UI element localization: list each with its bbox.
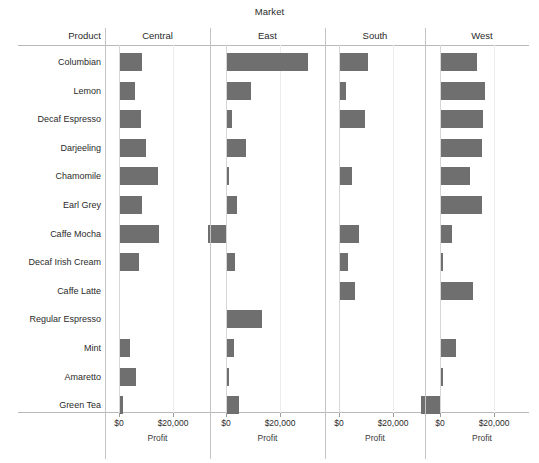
bar[interactable] [120, 110, 141, 128]
tick-label: $20,000 [158, 418, 189, 428]
bar[interactable] [120, 53, 142, 71]
row-label-columbian: Columbian [1, 57, 101, 68]
tick-label: $20,000 [479, 418, 510, 428]
tick-mark [339, 413, 340, 417]
bar[interactable] [227, 196, 237, 214]
bar[interactable] [120, 196, 142, 214]
bar[interactable] [441, 53, 477, 71]
row-label-amaretto: Amaretto [1, 372, 101, 383]
x-axis-title-central: Profit [105, 433, 210, 443]
row-label-mint: Mint [1, 343, 101, 354]
plot-area-east [210, 45, 325, 413]
row-label-chamomile: Chamomile [1, 171, 101, 182]
x-axis-title-east: Profit [210, 433, 325, 443]
bar[interactable] [441, 339, 456, 357]
row-label-caffe-mocha: Caffe Mocha [1, 229, 101, 240]
bar[interactable] [441, 196, 482, 214]
trellis-bar-chart: Market ProductCentralEastSouthWest Colum… [0, 0, 539, 463]
panel-separator-1 [210, 28, 211, 459]
bar[interactable] [227, 253, 235, 271]
x-axis-south: $0$20,000Profit [325, 413, 425, 459]
tick-mark [226, 413, 227, 417]
tick-mark [280, 413, 281, 417]
bar[interactable] [441, 282, 473, 300]
bar[interactable] [227, 396, 239, 414]
column-header-east: East [210, 28, 325, 45]
plot-area-south [325, 45, 425, 413]
bar[interactable] [120, 225, 159, 243]
plot-area-central [105, 45, 210, 413]
bar[interactable] [120, 368, 136, 386]
bar[interactable] [441, 82, 485, 100]
row-label-decaf-irish-cream: Decaf Irish Cream [1, 257, 101, 268]
bar[interactable] [120, 167, 158, 185]
x-axis-central: $0$20,000Profit [105, 413, 210, 459]
x-axis-east: $0$20,000Profit [210, 413, 325, 459]
bar[interactable] [340, 82, 346, 100]
bar[interactable] [120, 339, 130, 357]
zero-line-east [226, 45, 227, 413]
gridline-20000-central [173, 45, 174, 413]
tick-mark [393, 413, 394, 417]
bar[interactable] [340, 282, 355, 300]
column-header-south: South [325, 28, 425, 45]
row-label-caffe-latte: Caffe Latte [1, 286, 101, 297]
bar[interactable] [441, 253, 443, 271]
bar[interactable] [340, 53, 368, 71]
x-axis-title-west: Profit [425, 433, 539, 443]
product-label-column: ColumbianLemonDecaf EspressoDarjeelingCh… [0, 0, 101, 463]
row-label-darjeeling: Darjeeling [1, 143, 101, 154]
bar[interactable] [441, 225, 452, 243]
bar[interactable] [120, 139, 146, 157]
bar[interactable] [340, 225, 359, 243]
bar[interactable] [120, 396, 123, 414]
bar[interactable] [120, 253, 139, 271]
bar[interactable] [227, 139, 246, 157]
tick-mark [119, 413, 120, 417]
bar[interactable] [227, 167, 229, 185]
column-header-central: Central [105, 28, 210, 45]
row-label-lemon: Lemon [1, 86, 101, 97]
gridline-20000-south [393, 45, 394, 413]
panel-separator-2 [325, 28, 326, 459]
bar[interactable] [208, 225, 226, 243]
panel-central [105, 45, 210, 413]
bar[interactable] [441, 167, 470, 185]
bar[interactable] [340, 253, 348, 271]
row-label-earl-grey: Earl Grey [1, 200, 101, 211]
row-label-regular-espresso: Regular Espresso [1, 314, 101, 325]
tick-label: $0 [114, 418, 123, 428]
bar[interactable] [227, 110, 232, 128]
row-label-green-tea: Green Tea [1, 400, 101, 411]
bar[interactable] [340, 110, 365, 128]
bar[interactable] [227, 368, 229, 386]
tick-label: $20,000 [378, 418, 409, 428]
panel-south [325, 45, 425, 413]
gridline-20000-east [280, 45, 281, 413]
panel-separator-0 [105, 28, 106, 459]
tick-label: $0 [334, 418, 343, 428]
tick-mark [494, 413, 495, 417]
bar[interactable] [227, 82, 251, 100]
bar[interactable] [340, 167, 352, 185]
bar[interactable] [421, 396, 440, 414]
tick-label: $0 [221, 418, 230, 428]
bar[interactable] [441, 139, 482, 157]
bar[interactable] [227, 310, 262, 328]
bar[interactable] [227, 339, 234, 357]
tick-label: $20,000 [265, 418, 296, 428]
column-header-west: West [425, 28, 539, 45]
x-axis-west: $0$20,000Profit [425, 413, 539, 459]
panel-west [425, 45, 539, 413]
bar[interactable] [120, 82, 135, 100]
bar[interactable] [227, 53, 308, 71]
panel-east [210, 45, 325, 413]
panel-separator-3 [425, 28, 426, 459]
tick-mark [440, 413, 441, 417]
row-label-decaf-espresso: Decaf Espresso [1, 114, 101, 125]
gridline-20000-west [494, 45, 495, 413]
tick-mark [173, 413, 174, 417]
tick-label: $0 [435, 418, 444, 428]
bar[interactable] [441, 110, 483, 128]
bar[interactable] [441, 368, 443, 386]
